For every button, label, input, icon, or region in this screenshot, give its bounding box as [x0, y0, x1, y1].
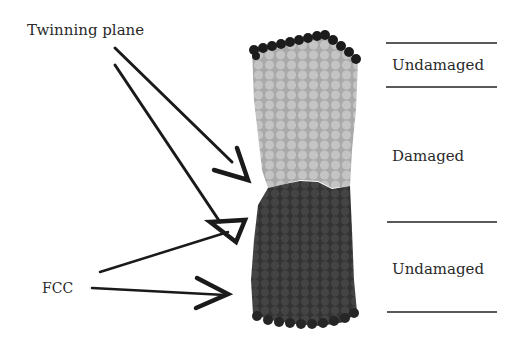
- figure-graphics: [0, 0, 522, 348]
- twinning-arrow-2: [115, 65, 220, 222]
- twinning-plane-label: Twinning plane: [27, 23, 144, 38]
- damaged-atoms-region: [252, 36, 358, 188]
- nanopillar-figure: Twinning plane FCC Undamaged Damaged Und…: [0, 0, 522, 348]
- fcc-atoms-region: [251, 181, 359, 329]
- region-bottom-label: Undamaged: [392, 262, 484, 277]
- fcc-label: FCC: [42, 281, 73, 295]
- region-top-label: Undamaged: [392, 58, 484, 73]
- fcc-arrow-2: [92, 288, 225, 295]
- twinning-arrow-1-head: [214, 148, 248, 180]
- region-middle-label: Damaged: [392, 149, 464, 164]
- fcc-arrow-1: [100, 232, 228, 272]
- twinning-arrow-1: [115, 48, 232, 162]
- arrows: [92, 48, 248, 308]
